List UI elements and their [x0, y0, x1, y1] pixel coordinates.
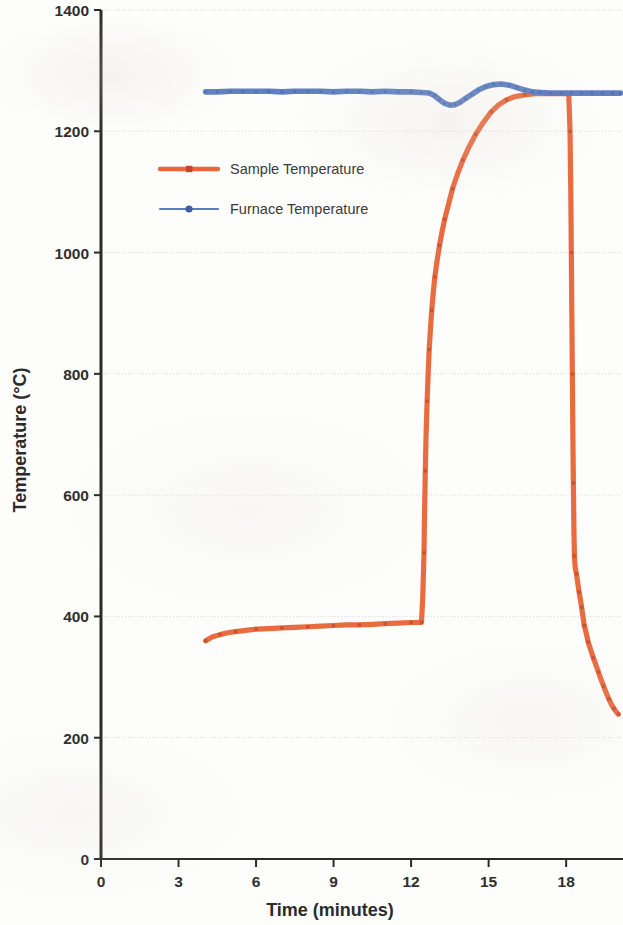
axes-group — [101, 10, 623, 859]
x-tick-label-9: 9 — [329, 873, 338, 890]
marker-point — [424, 469, 427, 472]
marker-point — [451, 187, 454, 190]
marker-point — [409, 90, 412, 93]
marker-point — [523, 88, 526, 91]
marker-point — [568, 130, 571, 133]
marker-point — [254, 627, 257, 630]
marker-point — [319, 90, 322, 93]
legend-marker-circle — [185, 205, 192, 212]
marker-point — [448, 104, 451, 107]
marker-point — [280, 626, 283, 629]
marker-point — [420, 621, 423, 624]
temperature-vs-time-chart: 0200400600800100012001400 0369121518 Sam… — [0, 0, 623, 925]
y-tick-label-600: 600 — [63, 487, 89, 504]
y-tick-label-1400: 1400 — [55, 2, 89, 19]
marker-point — [505, 98, 508, 101]
marker-point — [492, 83, 495, 86]
marker-point — [428, 91, 431, 94]
marker-point — [306, 625, 309, 628]
marker-point — [254, 90, 257, 93]
marker-point — [443, 218, 446, 221]
marker-point — [531, 90, 534, 93]
marker-point — [572, 481, 575, 484]
marker-point — [242, 90, 245, 93]
marker-point — [575, 572, 578, 575]
marker-point — [204, 639, 207, 642]
series-sample-temperature — [204, 92, 620, 716]
chart-legend: Sample TemperatureFurnace Temperature — [160, 161, 368, 217]
marker-point — [427, 348, 430, 351]
y-tick-label-400: 400 — [63, 608, 89, 625]
x-tick-label-12: 12 — [402, 873, 419, 890]
x-axis-title: Time (minutes) — [266, 900, 394, 920]
marker-point — [571, 372, 574, 375]
marker-point — [464, 97, 467, 100]
marker-point — [306, 90, 309, 93]
series-furnace-temperature — [204, 82, 622, 106]
marker-point — [477, 88, 480, 91]
data-series-group — [204, 82, 622, 715]
marker-point — [490, 110, 493, 113]
y-tick-label-1200: 1200 — [55, 123, 89, 140]
marker-point — [549, 91, 552, 94]
marker-point — [607, 697, 610, 700]
marker-point — [539, 91, 542, 94]
marker-point — [523, 93, 526, 96]
marker-point — [590, 91, 593, 94]
marker-point — [384, 622, 387, 625]
x-tick-label-0: 0 — [97, 873, 106, 890]
x-axis-ticks-group — [101, 859, 566, 867]
marker-point — [461, 159, 464, 162]
marker-point — [586, 640, 589, 643]
marker-point — [443, 102, 446, 105]
marker-point — [430, 308, 433, 311]
marker-point — [484, 85, 487, 88]
marker-point — [500, 82, 503, 85]
gridlines-group — [101, 10, 623, 859]
y-axis-title: Temperature (°C) — [10, 368, 30, 513]
marker-point — [218, 633, 221, 636]
y-axis-tick-labels: 0200400600800100012001400 — [55, 2, 89, 868]
marker-point — [453, 103, 456, 106]
marker-point — [216, 90, 219, 93]
x-tick-label-3: 3 — [174, 873, 183, 890]
marker-point — [397, 90, 400, 93]
marker-point — [580, 91, 583, 94]
marker-point — [204, 90, 207, 93]
marker-point — [474, 133, 477, 136]
marker-point — [612, 707, 615, 710]
marker-point — [425, 399, 428, 402]
marker-point — [438, 244, 441, 247]
y-tick-label-1000: 1000 — [55, 245, 89, 262]
marker-point — [384, 90, 387, 93]
marker-point — [577, 590, 580, 593]
marker-point — [470, 93, 473, 96]
legend-label-1: Furnace Temperature — [230, 201, 368, 217]
marker-point — [570, 91, 573, 94]
marker-point — [592, 656, 595, 659]
marker-point — [229, 90, 232, 93]
marker-point — [433, 94, 436, 97]
marker-point — [433, 275, 436, 278]
marker-point — [617, 712, 620, 715]
marker-point — [597, 671, 600, 674]
marker-point — [358, 90, 361, 93]
marker-point — [580, 606, 583, 609]
marker-point — [438, 98, 441, 101]
marker-point — [459, 101, 462, 104]
marker-point — [409, 621, 412, 624]
y-tick-label-200: 200 — [63, 730, 89, 747]
legend-marker-square — [186, 166, 192, 172]
marker-point — [570, 251, 573, 254]
y-tick-label-0: 0 — [80, 851, 89, 868]
y-tick-label-800: 800 — [63, 366, 89, 383]
marker-point — [515, 86, 518, 89]
x-tick-label-18: 18 — [558, 873, 576, 890]
marker-point — [619, 91, 622, 94]
marker-point — [371, 90, 374, 93]
x-tick-label-15: 15 — [480, 873, 498, 890]
marker-point — [601, 91, 604, 94]
legend-label-0: Sample Temperature — [230, 161, 364, 177]
marker-point — [573, 554, 576, 557]
marker-point — [559, 91, 562, 94]
